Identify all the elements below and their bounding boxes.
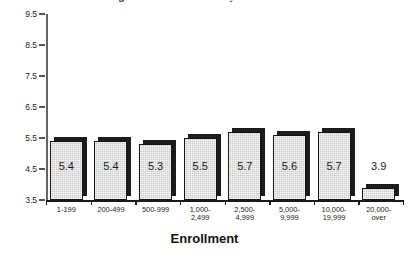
x-axis-label-line2: over [356,214,401,222]
x-axis-tick-mark [358,200,359,205]
y-axis-tick-mark [39,199,45,201]
x-axis-tick-mark [46,200,47,205]
bar-value-label: 5.3 [139,160,172,172]
y-axis-tick: 9.5 [0,9,46,19]
x-axis-title: Enrollment [0,231,409,246]
bar-group[interactable] [362,188,395,200]
x-axis-tick-mark [314,200,315,205]
x-axis-label-line2: 9,999 [267,214,312,222]
y-axis-tick: 5.5 [0,133,46,143]
bar-group[interactable]: 5.5 [184,138,217,200]
y-axis-tick-label: 9.5 [25,9,37,19]
x-axis-label: 2,500-4,999 [223,206,268,223]
bar-group[interactable]: 5.3 [139,144,172,200]
bar[interactable] [362,188,395,200]
x-axis-tick-mark [269,200,270,205]
x-axis-label-line1: 1-199 [57,205,76,214]
y-axis-tick-mark [39,106,45,108]
bar-value-label: 5.6 [273,160,306,172]
x-axis-tick-mark [135,200,136,205]
bar-chart: Average Number of Advisees by Size of In… [0,0,409,259]
y-axis-tick-label: 7.5 [25,71,37,81]
bar-value-label: 5.7 [228,160,261,172]
bar-group[interactable]: 5.4 [50,141,83,200]
x-axis-label-line2: 19,999 [312,214,357,222]
plot-area: 5.45.45.35.55.75.65.73.9 [46,14,403,200]
x-axis-tick-mark [225,200,226,205]
x-axis-label-line2: 2,499 [178,214,223,222]
y-axis-tick: 7.5 [0,71,46,81]
y-axis-tick: 4.5 [0,164,46,174]
x-axis-label: 1,000-2,499 [178,206,223,223]
bar[interactable] [139,144,172,200]
x-axis-label: 20,000-over [356,206,401,223]
bar-value-label: 5.4 [94,160,127,172]
chart-title: Average Number of Advisees by Size of In… [0,0,409,3]
x-axis-label: 200-499 [89,206,134,214]
y-axis-tick-mark [39,137,45,139]
bar-group[interactable]: 5.7 [228,132,261,200]
y-axis-tick: 6.5 [0,102,46,112]
y-axis-tick-label: 4.5 [25,164,37,174]
y-axis-tick-label: 3.5 [25,195,37,205]
x-axis-label: 1-199 [44,206,89,214]
y-axis-tick-mark [39,168,45,170]
x-axis-label: 10,000-19,999 [312,206,357,223]
x-axis-label-line1: 500-999 [142,205,169,214]
y-axis-tick: 3.5 [0,195,46,205]
bar-group[interactable]: 5.7 [318,132,351,200]
y-axis-tick-mark [39,75,45,77]
x-axis-tick-mark [180,200,181,205]
y-axis-tick-mark [39,44,45,46]
x-axis-tick-mark [403,200,404,205]
y-axis-tick-label: 6.5 [25,102,37,112]
x-axis-label-line2: 4,999 [223,214,268,222]
bar-value-label: 5.7 [318,160,351,172]
y-axis-tick-label: 5.5 [25,133,37,143]
y-axis-tick: 8.5 [0,40,46,50]
bar-value-label: 5.4 [50,160,83,172]
bar-value-label: 5.5 [184,160,217,172]
x-axis-label: 5,000-9,999 [267,206,312,223]
y-axis-tick-mark [39,13,45,15]
bar-value-label: 3.9 [362,160,395,172]
bar-group[interactable]: 5.4 [94,141,127,200]
x-axis-label-line1: 200-499 [97,205,124,214]
y-axis-tick-label: 8.5 [25,40,37,50]
x-axis-tick-mark [91,200,92,205]
x-axis-label: 500-999 [133,206,178,214]
bar-group[interactable]: 5.6 [273,135,306,200]
